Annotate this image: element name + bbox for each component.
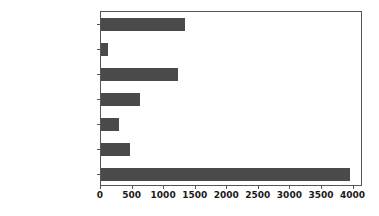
- x-tick-label-3000: 3000: [277, 190, 302, 201]
- x-tick-mark: [195, 186, 196, 189]
- y-tick-mark: [97, 49, 100, 50]
- x-tick-label-0: 0: [97, 190, 103, 201]
- bar-chart-figure: CompactMiniSmallMediumLarge / MediumLarg…: [0, 0, 379, 216]
- y-tick-mark: [97, 124, 100, 125]
- bar: [101, 118, 119, 131]
- x-tick-label-1000: 1000: [151, 190, 176, 201]
- bar: [101, 18, 185, 31]
- x-tick-mark: [258, 186, 259, 189]
- y-tick-mark: [97, 74, 100, 75]
- x-tick-label-3500: 3500: [308, 190, 333, 201]
- y-tick-mark: [97, 99, 100, 100]
- bar: [101, 143, 130, 156]
- y-tick-mark: [97, 174, 100, 175]
- x-tick-mark: [132, 186, 133, 189]
- x-tick-label-2000: 2000: [214, 190, 239, 201]
- x-tick-mark: [100, 186, 101, 189]
- bar: [101, 93, 140, 106]
- x-tick-label-2500: 2500: [245, 190, 270, 201]
- y-tick-mark: [97, 24, 100, 25]
- x-tick-mark: [289, 186, 290, 189]
- x-tick-mark: [226, 186, 227, 189]
- bar: [101, 43, 108, 56]
- x-tick-label-4000: 4000: [340, 190, 365, 201]
- y-tick-mark: [97, 149, 100, 150]
- bar: [101, 168, 350, 181]
- plot-axes: [100, 11, 362, 186]
- x-tick-label-500: 500: [122, 190, 141, 201]
- x-tick-label-1500: 1500: [182, 190, 207, 201]
- x-tick-mark: [353, 186, 354, 189]
- bar: [101, 68, 178, 81]
- x-tick-mark: [321, 186, 322, 189]
- x-tick-mark: [163, 186, 164, 189]
- plot-area: [101, 12, 361, 185]
